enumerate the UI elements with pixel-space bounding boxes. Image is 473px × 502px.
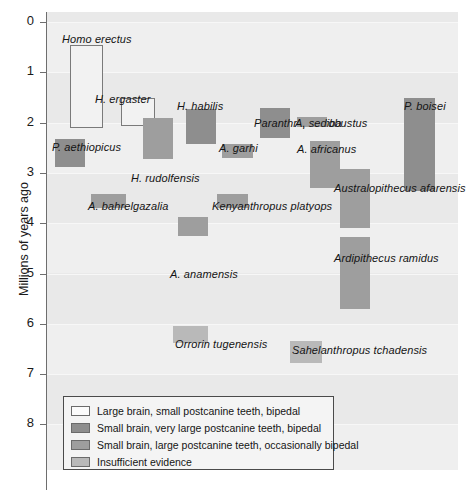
taxon-label: P. boisei <box>404 100 446 112</box>
taxon-label: H. ergaster <box>95 93 151 105</box>
bar-h-rudolfensis <box>143 118 173 159</box>
legend-swatch-insufficient-evidence <box>71 457 90 467</box>
hominin-timeline-figure: 012345678 Millions of years ago Large br… <box>0 0 473 502</box>
taxon-label: A. anamensis <box>170 268 238 280</box>
gridline <box>47 72 458 73</box>
legend-item-label: Small brain, large postcanine teeth, occ… <box>97 439 359 451</box>
gridline <box>47 274 458 275</box>
y-axis-tick-label: 1 <box>14 63 34 78</box>
y-axis-tick <box>40 223 47 224</box>
legend-swatch-very-large-postcanine <box>71 423 90 433</box>
y-axis-title: Millions of years ago <box>17 149 31 329</box>
legend-item-label: Large brain, small postcanine teeth, bip… <box>97 405 300 417</box>
bar-p-boisei <box>404 98 435 190</box>
y-axis-line <box>46 12 47 490</box>
taxon-label: A. sediba <box>295 117 342 129</box>
legend-item-label: Small brain, very large postcanine teeth… <box>97 422 321 434</box>
plot-background-band <box>47 22 458 72</box>
y-axis-tick <box>40 123 47 124</box>
gridline <box>47 173 458 174</box>
legend-item: Insufficient evidence <box>71 453 326 470</box>
taxon-label: A. garhi <box>219 142 258 154</box>
taxon-label: H. rudolfensis <box>131 172 200 184</box>
legend: Large brain, small postcanine teeth, bip… <box>63 396 334 470</box>
y-axis-tick-label: 7 <box>14 365 34 380</box>
taxon-label: P. aethiopicus <box>52 141 121 153</box>
legend-item: Small brain, large postcanine teeth, occ… <box>71 436 326 453</box>
y-axis-tick-label: 2 <box>14 114 34 129</box>
gridline <box>47 123 458 124</box>
legend-swatch-large-brain <box>71 406 90 416</box>
y-axis-tick <box>40 72 47 73</box>
taxon-label: Homo erectus <box>62 33 132 45</box>
y-axis-tick <box>40 274 47 275</box>
bar-ardipithecus-ramidus <box>340 237 370 308</box>
legend-item-label: Insufficient evidence <box>97 456 192 468</box>
y-axis-tick-label: 0 <box>14 13 34 28</box>
bar-h-habilis <box>186 109 216 144</box>
y-axis-tick <box>40 374 47 375</box>
legend-item: Large brain, small postcanine teeth, bip… <box>71 402 326 419</box>
taxon-label: Orrorin tugenensis <box>175 338 267 350</box>
y-axis-tick <box>40 424 47 425</box>
plot-background-band <box>47 223 458 273</box>
taxon-label: Ardipithecus ramidus <box>334 252 439 264</box>
taxon-label: Sahelanthropus tchadensis <box>292 344 427 356</box>
y-axis-tick-label: 8 <box>14 415 34 430</box>
taxon-label: H. habilis <box>177 100 223 112</box>
bar-australopithecus-afarensis <box>340 169 370 228</box>
gridline <box>47 324 458 325</box>
taxon-label: A. bahrelgazalia <box>88 200 169 212</box>
taxon-label: Kenyanthropus platyops <box>212 200 332 212</box>
y-axis-tick <box>40 324 47 325</box>
bar-a-anamensis <box>178 217 208 236</box>
gridline <box>47 223 458 224</box>
y-axis-tick <box>40 22 47 23</box>
bar-homo-erectus <box>70 45 103 128</box>
legend-swatch-large-postcanine <box>71 440 90 450</box>
taxon-label: Australopithecus afarensis <box>334 182 466 194</box>
gridline <box>47 374 458 375</box>
gridline <box>47 22 458 23</box>
taxon-label: A. africanus <box>297 143 356 155</box>
y-axis-tick <box>40 173 47 174</box>
legend-item: Small brain, very large postcanine teeth… <box>71 419 326 436</box>
